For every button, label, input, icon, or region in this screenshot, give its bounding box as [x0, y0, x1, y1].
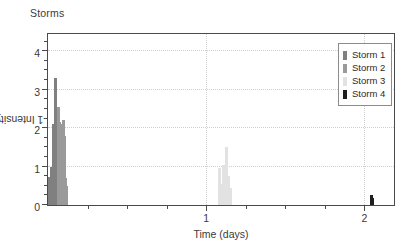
y-tick-minor — [44, 60, 48, 61]
y-tick-minor — [44, 41, 48, 42]
y-tick-major — [42, 89, 48, 90]
x-axis-title: Time (days) — [47, 228, 395, 240]
y-tick-major — [42, 127, 48, 128]
x-tick-major — [206, 205, 207, 211]
y-tick-major — [42, 166, 48, 167]
y-tick-minor — [44, 118, 48, 119]
bar-storm-2 — [65, 186, 68, 205]
legend-swatch-icon — [343, 90, 347, 99]
y-tick-label: 0 — [34, 201, 40, 213]
y-tick-minor — [44, 185, 48, 186]
x-tick-minor — [127, 205, 128, 209]
chart-title: Storms — [30, 7, 64, 19]
gridline-horizontal — [48, 127, 394, 128]
gridline-horizontal — [48, 166, 394, 167]
bar-storm-3 — [229, 188, 232, 205]
legend-swatch-icon — [343, 64, 347, 73]
y-tick-minor — [44, 69, 48, 70]
y-tick-label: 2 — [34, 124, 40, 136]
x-tick-minor — [325, 205, 326, 209]
y-tick-minor — [44, 108, 48, 109]
y-axis-title: Intensity (mm h-1) — [4, 33, 18, 206]
chart-legend: Storm 1Storm 2Storm 3Storm 4 — [338, 43, 392, 106]
legend-item[interactable]: Storm 3 — [343, 75, 385, 87]
y-tick-minor — [44, 175, 48, 176]
y-tick-minor — [44, 156, 48, 157]
gridline-vertical — [206, 34, 207, 205]
x-tick-label: 1 — [203, 212, 209, 224]
y-tick-minor — [44, 146, 48, 147]
legend-item[interactable]: Storm 4 — [343, 88, 385, 100]
x-tick-minor — [167, 205, 168, 209]
legend-item-label: Storm 2 — [352, 63, 385, 73]
y-tick-minor — [44, 194, 48, 195]
y-tick-minor — [44, 79, 48, 80]
y-tick-label: 4 — [34, 47, 40, 59]
legend-swatch-icon — [343, 77, 347, 86]
bar-storm-4 — [372, 198, 375, 205]
legend-item[interactable]: Storm 1 — [343, 49, 385, 61]
x-tick-minor — [88, 205, 89, 209]
legend-item-label: Storm 3 — [352, 76, 385, 86]
y-tick-major — [42, 204, 48, 205]
legend-item-label: Storm 1 — [352, 50, 385, 60]
x-tick-major — [364, 205, 365, 211]
legend-item[interactable]: Storm 2 — [343, 62, 385, 74]
y-tick-label: 1 — [34, 163, 40, 175]
storms-chart-figure: Storms Intensity (mm h-1) 0123412 Time (… — [0, 0, 418, 251]
legend-item-label: Storm 4 — [352, 89, 385, 99]
y-tick-label: 3 — [34, 86, 40, 98]
y-tick-major — [42, 50, 48, 51]
y-tick-minor — [44, 98, 48, 99]
y-tick-minor — [44, 137, 48, 138]
x-tick-minor — [246, 205, 247, 209]
legend-swatch-icon — [343, 51, 347, 60]
x-tick-minor — [285, 205, 286, 209]
x-tick-label: 2 — [361, 212, 367, 224]
